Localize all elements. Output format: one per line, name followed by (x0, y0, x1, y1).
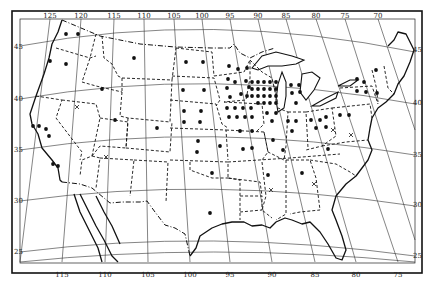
occurrence-dots (31, 32, 379, 215)
occurrence-dot (210, 171, 214, 175)
occurrence-dot (218, 144, 222, 148)
occurrence-dot (182, 109, 186, 113)
occurrence-dot (268, 101, 272, 105)
occurrence-dot (274, 94, 278, 98)
occurrence-dot (256, 94, 260, 98)
latitude-label: 35 (413, 151, 422, 159)
occurrence-dot (235, 115, 239, 119)
occurrence-dot (233, 80, 237, 84)
longitude-label: 105 (167, 12, 180, 20)
occurrence-dot (256, 101, 260, 105)
occurrence-dot (250, 80, 254, 84)
occurrence-dot (31, 124, 35, 128)
occurrence-dot (294, 101, 298, 105)
occurrence-dot (270, 119, 274, 123)
occurrence-dot (227, 115, 231, 119)
occurrence-dot (274, 80, 278, 84)
occurrence-dot (233, 106, 237, 110)
occurrence-dot (238, 129, 242, 133)
longitude-label: 90 (254, 12, 263, 20)
mexico-border (62, 182, 190, 256)
occurrence-dot (201, 60, 205, 64)
occurrence-dot (155, 126, 159, 130)
latitude-labels-right: 4540353025 (413, 46, 422, 260)
longitude-label: 70 (374, 12, 383, 20)
longitude-label: 120 (74, 12, 87, 20)
occurrence-dot (245, 94, 249, 98)
occurrence-dot (274, 101, 278, 105)
occurrence-dot (196, 139, 200, 143)
occurrence-dot (241, 106, 245, 110)
occurrence-dot (76, 32, 80, 36)
occurrence-dot (227, 64, 231, 68)
occurrence-dot (274, 111, 278, 115)
occurrence-dot (274, 87, 278, 91)
occurrence-dot (44, 127, 48, 131)
occurrence-dot (64, 32, 68, 36)
occurrence-dot (314, 126, 318, 130)
occurrence-dot (375, 91, 379, 95)
longitude-label: 110 (98, 271, 111, 279)
occurrence-dot (374, 68, 378, 72)
occurrence-dot (268, 94, 272, 98)
occurrence-dot (281, 148, 285, 152)
occurrence-dot (290, 91, 294, 95)
occurrence-dot (250, 87, 254, 91)
occurrence-dot (250, 129, 254, 133)
longitude-label: 85 (282, 12, 291, 20)
occurrence-dot (250, 94, 254, 98)
occurrence-dot (37, 124, 41, 128)
latitude-label: 25 (14, 248, 23, 256)
lake-erie (312, 92, 338, 106)
occurrence-dot (309, 118, 313, 122)
occurrence-dot (199, 109, 203, 113)
occurrence-dot (100, 87, 104, 91)
longitude-label: 75 (341, 12, 350, 20)
canada-border (62, 20, 275, 58)
latitude-label: 40 (14, 95, 23, 103)
occurrence-dot (268, 87, 272, 91)
occurrence-dot (228, 95, 232, 99)
occurrence-dot (256, 87, 260, 91)
occurrence-dot (236, 67, 240, 71)
longitude-label: 80 (352, 271, 361, 279)
longitude-label: 95 (226, 12, 235, 20)
occurrence-dot (208, 211, 212, 215)
occurrence-dot (266, 173, 270, 177)
longitude-label: 90 (268, 271, 277, 279)
latitude-lines (20, 29, 415, 262)
occurrence-dot (241, 147, 245, 151)
us-coastline (30, 20, 414, 260)
latitude-label: 35 (14, 146, 23, 154)
occurrence-dot (181, 88, 185, 92)
occurrence-dot (268, 80, 272, 84)
longitude-label: 115 (107, 12, 120, 20)
occurrence-dot (250, 115, 254, 119)
longitude-label: 105 (141, 271, 154, 279)
longitude-label: 110 (137, 12, 150, 20)
longitude-label: 125 (43, 12, 56, 20)
us-distribution-map: 125120115110105100959085807570 115110105… (0, 0, 433, 287)
map-outer-frame (12, 11, 422, 273)
occurrence-dot (249, 106, 253, 110)
latitude-label: 45 (14, 43, 23, 51)
occurrence-dot (298, 90, 302, 94)
occurrence-dot (262, 80, 266, 84)
occurrence-dot (184, 60, 188, 64)
occurrence-dot (195, 150, 199, 154)
occurrence-dot (364, 90, 368, 94)
occurrence-dot (225, 106, 229, 110)
longitude-label: 95 (226, 271, 235, 279)
occurrence-dot (64, 62, 68, 66)
occurrence-dot (294, 119, 298, 123)
state-borders (36, 34, 394, 220)
longitude-label: 75 (394, 271, 403, 279)
occurrence-dot (256, 80, 260, 84)
occurrence-dot (286, 119, 290, 123)
latitude-labels-left: 4540353025 (14, 43, 23, 256)
occurrence-dot (318, 118, 322, 122)
occurrence-dot (226, 77, 230, 81)
occurrence-dot (297, 83, 301, 87)
occurrence-dot (56, 164, 60, 168)
occurrence-dot (198, 120, 202, 124)
